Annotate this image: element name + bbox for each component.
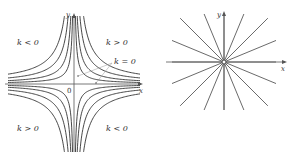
radial-ray bbox=[226, 18, 268, 60]
hyperbola-level-curves-figure: x y 0 k < 0 k > 0 k > 0 k < 0 k = 0 bbox=[0, 0, 146, 159]
region-label-top-left: k < 0 bbox=[17, 38, 39, 47]
region-label-top-right: k > 0 bbox=[106, 38, 128, 47]
radial-ray bbox=[172, 40, 222, 61]
hyperbola-curve bbox=[77, 87, 140, 152]
annotation-dot-x bbox=[95, 82, 97, 84]
radial-ray bbox=[204, 64, 223, 110]
radial-ray bbox=[226, 40, 276, 61]
radial-ray bbox=[225, 14, 244, 60]
hyperbola-curve bbox=[8, 16, 71, 81]
region-label-bottom-left: k > 0 bbox=[17, 124, 39, 133]
x-axis-arrow-icon bbox=[282, 60, 287, 64]
annotation-k-zero: k = 0 bbox=[114, 57, 136, 66]
hyperbola-curve bbox=[84, 94, 140, 152]
y-axis-label: y bbox=[216, 11, 222, 19]
radial-ray bbox=[226, 64, 268, 106]
y-axis-label: y bbox=[65, 11, 71, 19]
radial-lines-plot: x y bbox=[146, 0, 292, 159]
origin-open-circle bbox=[222, 60, 226, 64]
hyperbola-curve bbox=[77, 16, 140, 81]
annotation-dot-y bbox=[77, 75, 79, 77]
x-axis-arrow-icon bbox=[138, 82, 143, 86]
y-axis-arrow-icon bbox=[222, 11, 226, 16]
radial-lines-figure: x y bbox=[146, 0, 292, 159]
hyperbola-curve bbox=[8, 94, 64, 152]
radial-ray bbox=[180, 18, 222, 60]
origin-label: 0 bbox=[67, 87, 71, 95]
radial-ray bbox=[226, 63, 276, 84]
radial-ray bbox=[204, 14, 223, 60]
radial-ray bbox=[172, 63, 222, 84]
radial-ray bbox=[180, 64, 222, 106]
radial-ray bbox=[225, 64, 244, 110]
x-axis-label: x bbox=[139, 87, 143, 95]
hyperbola-plot: x y 0 k < 0 k > 0 k > 0 k < 0 k = 0 bbox=[0, 0, 146, 159]
y-axis-arrow-icon bbox=[72, 13, 76, 18]
hyperbola-curve bbox=[8, 87, 71, 152]
x-axis-label: x bbox=[281, 65, 285, 73]
region-label-bottom-right: k < 0 bbox=[106, 124, 128, 133]
